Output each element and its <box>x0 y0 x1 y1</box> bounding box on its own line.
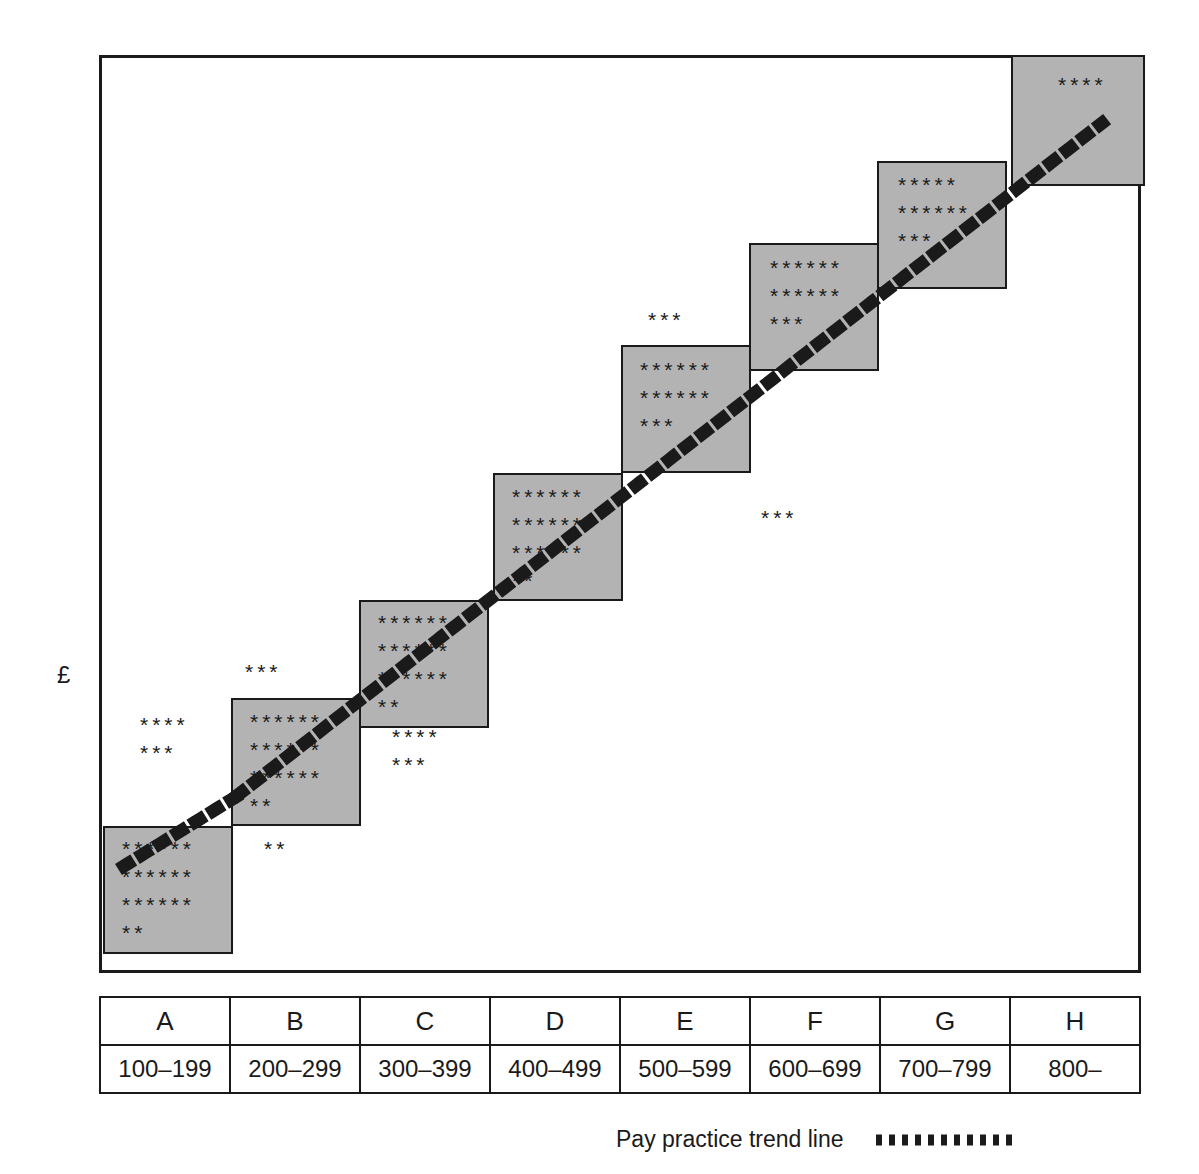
dotted-line-swatch-icon <box>874 1133 1018 1147</box>
star-row: ****** <box>512 483 585 511</box>
chart-plot-area: ******* ******************** ** *** ****… <box>99 55 1141 973</box>
band-range-c: 300–399 <box>360 1045 490 1093</box>
star-row: ****** <box>250 764 323 792</box>
star-row: *** <box>640 412 713 440</box>
star-cluster-a-above: ******* <box>140 711 189 767</box>
band-letter-f: F <box>750 997 880 1045</box>
star-row: ** <box>122 919 195 947</box>
star-row: ** <box>512 567 585 595</box>
band-table: A B C D E F G H 100–199 200–299 300–399 … <box>99 996 1141 1094</box>
star-row: ****** <box>640 384 713 412</box>
star-cluster-e-above: *** <box>648 306 685 334</box>
star-row: ****** <box>770 282 843 310</box>
star-row: *** <box>898 227 971 255</box>
band-letter-b: B <box>230 997 360 1045</box>
star-row: ****** <box>250 736 323 764</box>
star-row: *** <box>648 306 685 334</box>
star-row: ****** <box>250 708 323 736</box>
band-range-d: 400–499 <box>490 1045 620 1093</box>
star-row: ** <box>264 835 288 863</box>
plot-inner: ******* ******************** ** *** ****… <box>102 58 1138 970</box>
star-row: ****** <box>122 891 195 919</box>
star-cluster-g-inside: ************** <box>898 171 971 255</box>
star-cluster-b-above: *** <box>245 658 282 686</box>
star-row: **** <box>1058 71 1107 99</box>
star-row: *** <box>392 751 441 779</box>
band-range-f: 600–699 <box>750 1045 880 1093</box>
star-cluster-a-right: ** <box>264 835 288 863</box>
star-row: ***** <box>898 171 971 199</box>
star-row: **** <box>140 711 189 739</box>
star-row: ****** <box>378 637 451 665</box>
star-cluster-f-inside: *************** <box>770 254 843 338</box>
star-row: ****** <box>378 665 451 693</box>
star-cluster-b-inside: ******************** <box>250 708 323 820</box>
star-row: ** <box>378 693 451 721</box>
legend-label: Pay practice trend line <box>616 1126 844 1153</box>
star-cluster-d-inside: ******************** <box>512 483 585 595</box>
star-row: *** <box>140 739 189 767</box>
star-cluster-c-below: ******* <box>392 723 441 779</box>
star-row: **** <box>392 723 441 751</box>
star-row: ****** <box>640 356 713 384</box>
star-cluster-e-inside: *************** <box>640 356 713 440</box>
star-cluster-c-inside: ******************** <box>378 609 451 721</box>
star-row: ****** <box>122 835 195 863</box>
star-row: ****** <box>122 863 195 891</box>
star-row: ****** <box>770 254 843 282</box>
band-letter-d: D <box>490 997 620 1045</box>
star-row: ****** <box>512 539 585 567</box>
band-letter-a: A <box>100 997 230 1045</box>
band-letter-row: A B C D E F G H <box>100 997 1140 1045</box>
band-range-h: 800– <box>1010 1045 1140 1093</box>
band-range-e: 500–599 <box>620 1045 750 1093</box>
star-row: *** <box>770 310 843 338</box>
y-axis-label: £ <box>57 661 70 689</box>
band-letter-c: C <box>360 997 490 1045</box>
band-range-a: 100–199 <box>100 1045 230 1093</box>
band-letter-e: E <box>620 997 750 1045</box>
star-row: ****** <box>898 199 971 227</box>
band-letter-g: G <box>880 997 1010 1045</box>
star-cluster-h-inside: **** <box>1058 71 1107 99</box>
star-row: ****** <box>378 609 451 637</box>
band-range-g: 700–799 <box>880 1045 1010 1093</box>
chart-legend: Pay practice trend line <box>616 1126 1018 1153</box>
star-row: *** <box>245 658 282 686</box>
star-row: ****** <box>512 511 585 539</box>
band-letter-h: H <box>1010 997 1140 1045</box>
star-row: ** <box>250 792 323 820</box>
band-range-row: 100–199 200–299 300–399 400–499 500–599 … <box>100 1045 1140 1093</box>
band-range-b: 200–299 <box>230 1045 360 1093</box>
star-cluster-a-inside: ******************** <box>122 835 195 947</box>
star-cluster-f-below: *** <box>761 504 798 532</box>
star-row: *** <box>761 504 798 532</box>
